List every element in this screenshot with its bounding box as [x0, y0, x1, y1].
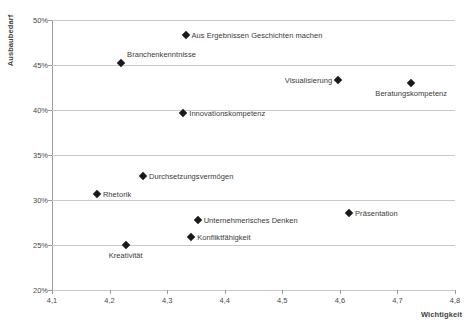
x-axis-tick-mark: [455, 290, 456, 294]
data-point[interactable]: [193, 215, 201, 223]
data-point-label: Beratungskompetenz: [375, 89, 447, 98]
gridline-horizontal: [52, 155, 455, 156]
data-point-label: Aus Ergebnissen Geschichten machen: [192, 31, 323, 40]
x-axis-tick-mark: [167, 290, 168, 294]
x-axis-tick-mark: [397, 290, 398, 294]
data-point[interactable]: [407, 79, 415, 87]
data-point[interactable]: [139, 171, 147, 179]
x-axis-tick-mark: [225, 290, 226, 294]
y-axis-tick-label: 20%: [33, 286, 48, 295]
y-axis-tick-mark: [48, 200, 52, 201]
gridline-horizontal: [52, 65, 455, 66]
data-point-label: Visualisierung: [285, 76, 332, 85]
y-axis-tick-mark: [48, 110, 52, 111]
x-axis-title: Wichtigkeit: [421, 310, 462, 319]
y-axis-tick-label: 50%: [33, 16, 48, 25]
data-point[interactable]: [121, 241, 129, 249]
x-axis-tick-label: 4,7: [392, 296, 402, 305]
x-axis-tick-label: 4,6: [335, 296, 345, 305]
y-axis-title-text: Ausbaubedarf: [6, 6, 15, 76]
x-axis-tick-label: 4,4: [219, 296, 229, 305]
data-point-label: Kreativität: [109, 251, 143, 260]
x-axis-tick-label: 4,1: [47, 296, 57, 305]
data-point[interactable]: [181, 31, 189, 39]
y-axis-title: Ausbaubedarf: [0, 0, 14, 80]
data-point[interactable]: [334, 76, 342, 84]
y-axis-tick-mark: [48, 20, 52, 21]
data-point-label: Präsentation: [355, 208, 398, 217]
data-point[interactable]: [93, 190, 101, 198]
x-axis-tick-label: 4,2: [104, 296, 114, 305]
y-axis-tick-mark: [48, 245, 52, 246]
y-axis-tick-label: 25%: [33, 241, 48, 250]
y-axis-tick-mark: [48, 155, 52, 156]
data-point-label: Rhetorik: [103, 189, 131, 198]
y-axis-tick-label: 35%: [33, 151, 48, 160]
gridline-horizontal: [52, 20, 455, 21]
gridline-horizontal: [52, 290, 455, 291]
x-axis-tick-mark: [52, 290, 53, 294]
gridline-horizontal: [52, 245, 455, 246]
data-point[interactable]: [187, 233, 195, 241]
x-axis-tick-label: 4,5: [277, 296, 287, 305]
x-axis-tick-mark: [282, 290, 283, 294]
gridline-horizontal: [52, 200, 455, 201]
x-axis-tick-label: 4,8: [450, 296, 460, 305]
y-axis-tick-mark: [48, 65, 52, 66]
data-point-label: Konfliktfähigkeit: [197, 232, 250, 241]
x-axis-tick-mark: [110, 290, 111, 294]
data-point-label: Innovationskompetenz: [189, 108, 265, 117]
data-point-label: Durchsetzungsvermögen: [149, 171, 233, 180]
plot-area: 20%25%30%35%40%45%50%Aus Ergebnissen Ges…: [52, 20, 455, 290]
scatter-chart: Ausbaubedarf Wichtigkeit 20%25%30%35%40%…: [0, 0, 470, 331]
data-point-label: Unternehmerisches Denken: [204, 215, 298, 224]
x-axis-tick-label: 4,3: [162, 296, 172, 305]
data-point[interactable]: [345, 208, 353, 216]
data-point-label: Branchenkenntnisse: [127, 50, 196, 59]
y-axis-tick-label: 30%: [33, 196, 48, 205]
y-axis-tick-label: 40%: [33, 106, 48, 115]
x-axis-tick-mark: [340, 290, 341, 294]
y-axis-tick-label: 45%: [33, 61, 48, 70]
